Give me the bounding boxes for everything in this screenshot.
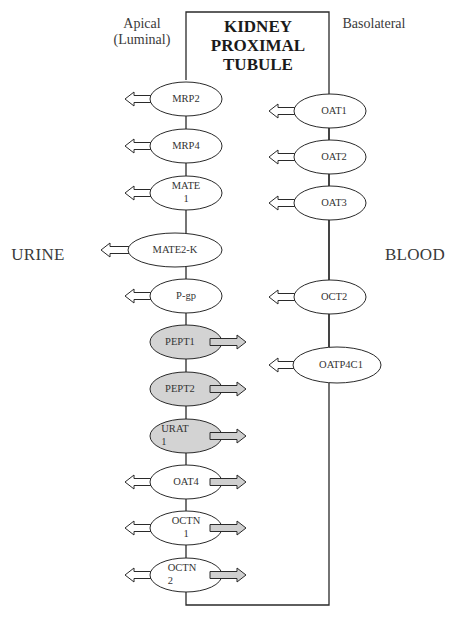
label-line: MATE <box>172 180 201 193</box>
transporter-oat1 <box>269 94 366 128</box>
label-line: 1 <box>172 528 201 541</box>
label-oatp4c1: OATP4C1 <box>319 359 363 372</box>
label-urat1: URAT 1 <box>161 423 188 448</box>
blood-label: BLOOD <box>382 245 448 265</box>
title-line-1: KIDNEY <box>190 17 326 36</box>
label-line: 1 <box>172 193 201 206</box>
basolateral-label: Basolateral <box>336 16 412 32</box>
apical-sub-label-text: (Luminal) <box>112 32 172 48</box>
transporter-pgp <box>125 279 222 313</box>
label-oat4: OAT4 <box>173 476 199 489</box>
kidney-proximal-tubule-diagram <box>0 0 450 617</box>
label-oat3: OAT3 <box>321 197 347 210</box>
label-line: OCTN <box>168 562 197 575</box>
label-oat1: OAT1 <box>321 105 347 118</box>
transporter-oat3 <box>269 186 366 220</box>
label-mrp4: MRP4 <box>172 140 199 153</box>
apical-label-text: Apical <box>112 16 172 32</box>
label-line: OCTN <box>172 515 201 528</box>
label-mate2k: MATE2-K <box>153 244 198 257</box>
title-line-2: PROXIMAL <box>190 36 326 55</box>
diagram-title: KIDNEY PROXIMAL TUBULE <box>190 17 326 74</box>
label-pept1: PEPT1 <box>165 336 195 349</box>
label-line: 1 <box>161 436 188 449</box>
apical-label: Apical (Luminal) <box>112 16 172 48</box>
title-line-3: TUBULE <box>190 55 326 74</box>
label-pept2: PEPT2 <box>165 383 195 396</box>
urine-label: URINE <box>8 245 68 265</box>
label-line: URAT <box>161 423 188 436</box>
transporter-oct2 <box>269 280 366 314</box>
label-octn2: OCTN 2 <box>168 562 197 587</box>
transporter-oat2 <box>269 140 366 174</box>
label-octn1: OCTN 1 <box>172 515 201 540</box>
label-oct2: OCT2 <box>321 291 347 304</box>
label-line: 2 <box>168 575 197 588</box>
label-mate1: MATE 1 <box>172 180 201 205</box>
label-mrp2: MRP2 <box>172 93 199 106</box>
label-oat2: OAT2 <box>321 151 347 164</box>
label-pgp: P-gp <box>176 290 196 303</box>
